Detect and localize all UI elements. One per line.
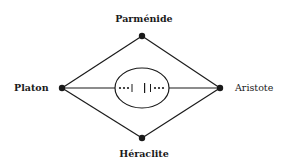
node-aristote <box>217 85 223 91</box>
dot-icon <box>154 87 156 89</box>
dot-icon <box>119 87 121 89</box>
dot-icon <box>123 87 125 89</box>
dot-icon <box>158 87 160 89</box>
bar-icon <box>150 84 151 92</box>
node-heraclite <box>139 135 145 141</box>
label-platon: Platon <box>14 83 49 93</box>
node-parmenide <box>139 33 145 39</box>
label-parmenide: Parménide <box>0 14 288 24</box>
label-heraclite: Héraclite <box>0 149 288 159</box>
bar-icon <box>132 84 133 92</box>
dot-icon <box>127 87 129 89</box>
node-platon <box>59 85 65 91</box>
bar-icon <box>144 83 145 93</box>
dot-icon <box>162 87 164 89</box>
label-aristote: Aristote <box>235 83 273 93</box>
